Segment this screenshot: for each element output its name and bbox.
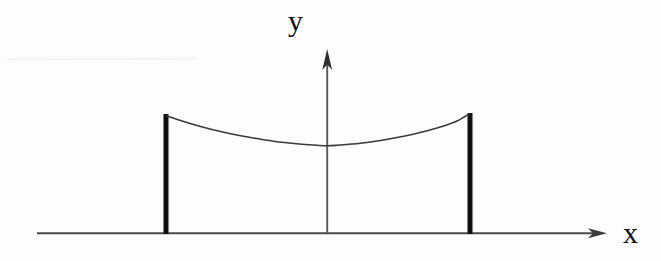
scan-streak bbox=[6, 59, 198, 60]
figure-canvas: y x bbox=[0, 0, 661, 261]
diagram-svg bbox=[0, 0, 661, 261]
y-axis-label: y bbox=[288, 6, 303, 36]
right-post bbox=[468, 113, 473, 234]
x-axis-label: x bbox=[623, 218, 638, 248]
left-post bbox=[164, 114, 169, 234]
catenary-curve bbox=[167, 114, 469, 146]
